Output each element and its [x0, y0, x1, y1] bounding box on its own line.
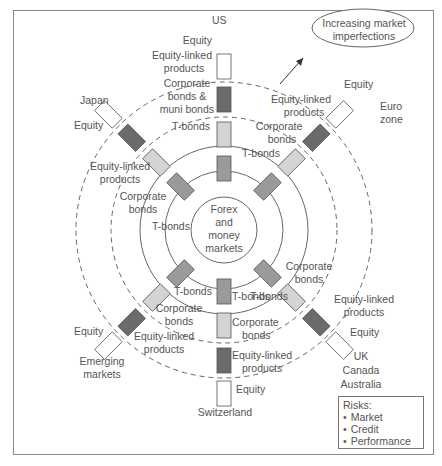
uk-corporate-label-1: Corporate: [284, 260, 334, 272]
ch-corporate-label-2: bonds: [242, 329, 271, 341]
legend-item-performance: Performance: [343, 435, 419, 447]
risks-legend: Risks: Market Credit Performance: [338, 396, 424, 449]
em-corporate-label-1: Corporate: [154, 302, 204, 314]
em-equity-label: Equity: [74, 325, 103, 337]
jp-equity-linked-label-2: products: [90, 173, 150, 185]
us-tbonds-label: T-bonds: [168, 120, 210, 132]
uk-tbonds-label: T-bonds: [250, 290, 288, 302]
switzerland-equity-linked-box: [217, 348, 231, 373]
legend-title: Risks:: [343, 399, 419, 411]
region-canada: Canada: [336, 364, 386, 376]
legend-list: Market Credit Performance: [343, 411, 419, 447]
uk-equity-linked-box: [302, 308, 330, 336]
region-emerging-1: Emerging: [78, 355, 126, 367]
jp-equity-linked-label-1: Equity-linked: [90, 160, 150, 172]
emerging-tbonds-box: [167, 260, 195, 288]
region-eurozone-1: Euro: [380, 100, 402, 112]
em-tbonds-label: T-bonds: [174, 285, 212, 297]
japan-tbonds-box: [167, 173, 195, 201]
region-emerging-2: markets: [78, 368, 126, 380]
center-label-1: Forex: [200, 203, 248, 215]
ch-equity-label: Equity: [236, 383, 265, 395]
jp-equity-label: Equity: [74, 119, 103, 131]
us-corporate-label-1: Corporate: [160, 77, 214, 89]
em-equity-linked-label-1: Equity-linked: [134, 330, 194, 342]
us-equity-linked-label-1: Equity-linked: [148, 49, 212, 61]
eurozone-equity-linked-box: [302, 124, 330, 152]
eu-equity-linked-label-1: Equity-linked: [270, 93, 332, 105]
ch-equity-linked-label-2: products: [242, 362, 282, 374]
us-corporate-label-2: bonds &: [160, 90, 214, 102]
region-australia: Australia: [336, 378, 386, 390]
switzerland-tbonds-box: [217, 279, 231, 304]
us-tbonds-box: [217, 156, 231, 181]
region-switzerland: Switzerland: [190, 406, 260, 418]
switzerland-equity-box: [217, 381, 231, 406]
center-label-2: and: [200, 216, 248, 228]
em-corporate-label-2: bonds: [154, 315, 204, 327]
us-equity-linked-box: [217, 87, 231, 112]
switzerland-corporate-box: [217, 313, 231, 338]
jp-corporate-label-2: bonds: [118, 203, 168, 215]
eu-equity-linked-label-2: products: [278, 106, 330, 118]
center-label-4: markets: [200, 242, 248, 254]
region-us: US: [212, 14, 227, 26]
eu-corporate-label-1: Corporate: [254, 120, 304, 132]
annotation-line2: imperfections: [316, 30, 412, 42]
legend-item-market: Market: [343, 411, 419, 423]
ch-equity-linked-label-1: Equity-linked: [232, 349, 292, 361]
us-equity-label: Equity: [168, 34, 212, 46]
region-japan: Japan: [80, 94, 109, 106]
us-corporate-label-3: muni bonds: [150, 103, 214, 115]
region-uk: UK: [336, 350, 386, 362]
us-equity-linked-label-2: products: [160, 62, 208, 74]
eurozone-corporate-box: [278, 149, 306, 177]
japan-equity-linked-box: [118, 124, 146, 152]
eu-tbonds-label: T-bonds: [242, 147, 280, 159]
us-corporate-box: [217, 122, 231, 147]
uk-equity-label: Equity: [350, 326, 379, 338]
jp-tbonds-label: T-bonds: [152, 220, 190, 232]
legend-item-credit: Credit: [343, 423, 419, 435]
ch-corporate-label-1: Corporate: [232, 316, 279, 328]
eurozone-tbonds-box: [254, 173, 282, 201]
us-equity-box: [217, 54, 231, 79]
uk-equity-linked-label-1: Equity-linked: [332, 293, 396, 305]
uk-corporate-label-2: bonds: [284, 273, 334, 285]
eu-equity-label: Equity: [344, 78, 373, 90]
jp-corporate-label-1: Corporate: [118, 190, 168, 202]
eu-corporate-label-2: bonds: [262, 133, 302, 145]
annotation-line1: Increasing market: [316, 17, 412, 29]
center-label-3: money: [200, 229, 248, 241]
uk-tbonds-box: [254, 260, 282, 288]
uk-equity-linked-label-2: products: [332, 306, 396, 318]
em-equity-linked-label-2: products: [134, 343, 194, 355]
region-eurozone-2: zone: [380, 113, 403, 125]
